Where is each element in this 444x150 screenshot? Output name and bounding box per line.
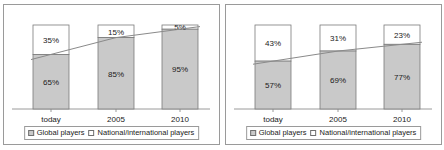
left-chart-legend: Global players National/international pl…: [24, 126, 200, 140]
bar-label-global: 69%: [330, 76, 346, 85]
legend-entry-national-international-players: National/international players: [311, 128, 417, 138]
left-chart-svg: 35%65%today15%85%20055%95%2010: [4, 5, 218, 145]
bar-label-global: 65%: [43, 78, 59, 87]
x-axis-tick-label: 2005: [107, 115, 125, 124]
right-chart-legend: Global players National/international pl…: [246, 126, 422, 140]
legend-swatch-white-icon: [89, 130, 95, 136]
bar-label-global: 95%: [172, 65, 188, 74]
left-chart-plot-area: 35%65%today15%85%20055%95%2010: [4, 5, 219, 144]
legend-label-global-players: Global players: [259, 128, 307, 138]
bar-label-global: 77%: [394, 73, 410, 82]
legend-entry-national-international-players: National/international players: [89, 128, 195, 138]
legend-entry-global-players: Global players: [28, 128, 85, 138]
bar-label-national-international: 15%: [108, 28, 124, 37]
left-chart-panel: 35%65%today15%85%20055%95%2010 Global pl…: [3, 4, 220, 145]
bar-label-national-international: 35%: [43, 36, 59, 45]
bar-label-national-international: 43%: [265, 39, 281, 48]
right-chart-plot-area: 43%57%today31%69%200523%77%2010: [226, 5, 441, 144]
legend-swatch-white-icon: [311, 130, 317, 136]
legend-entry-global-players: Global players: [250, 128, 307, 138]
legend-swatch-gray-icon: [250, 130, 256, 136]
legend-label-national-international-players: National/international players: [320, 128, 417, 138]
x-axis-tick-label: 2010: [393, 115, 411, 124]
x-axis-tick-label: 2005: [329, 115, 347, 124]
dual-chart-figure: 35%65%today15%85%20055%95%2010 Global pl…: [0, 0, 444, 150]
bar-label-national-international: 5%: [174, 23, 186, 32]
legend-swatch-gray-icon: [28, 130, 34, 136]
legend-label-national-international-players: National/international players: [98, 128, 195, 138]
bar-label-global: 85%: [108, 70, 124, 79]
x-axis-tick-label: 2010: [171, 115, 189, 124]
x-axis-tick-label: today: [263, 115, 283, 124]
bar-label-national-international: 31%: [330, 34, 346, 43]
bar-label-national-international: 23%: [394, 31, 410, 40]
bar-group: [255, 25, 291, 109]
right-chart-panel: 43%57%today31%69%200523%77%2010 Global p…: [225, 4, 442, 145]
right-chart-svg: 43%57%today31%69%200523%77%2010: [226, 5, 440, 145]
bar-label-global: 57%: [265, 81, 281, 90]
x-axis-tick-label: today: [41, 115, 61, 124]
legend-label-global-players: Global players: [37, 128, 85, 138]
